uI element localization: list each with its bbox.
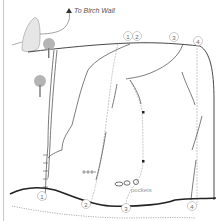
trail-line bbox=[12, 206, 196, 218]
route-number-top-3: 3 bbox=[170, 33, 179, 42]
route-2-bolts bbox=[82, 170, 96, 174]
route-number-top-1: 1 bbox=[124, 32, 133, 41]
main-crack bbox=[48, 44, 130, 158]
pockets-label: pockets bbox=[131, 187, 152, 193]
boulder bbox=[22, 18, 40, 52]
tree-icon bbox=[34, 75, 46, 97]
route-number-bottom-2: 2 bbox=[82, 200, 91, 209]
crag-top bbox=[28, 43, 214, 200]
route-number-bottom-3: 3 bbox=[122, 204, 131, 213]
route-number-bottom-1: 1 bbox=[38, 192, 47, 201]
route-number-top-2: 2 bbox=[133, 32, 142, 41]
arrow-up-icon bbox=[66, 8, 72, 13]
approach-trail bbox=[40, 12, 70, 34]
route-number-bottom-4: 4 bbox=[188, 202, 197, 211]
direction-label: To Birch Wall bbox=[74, 7, 115, 14]
route-number-top-4: 4 bbox=[194, 37, 203, 46]
route-2-line bbox=[90, 44, 118, 205]
bolt-marker bbox=[142, 160, 145, 163]
left-wall-line bbox=[45, 50, 54, 200]
climbing-topo: To Birch Wall po bbox=[0, 0, 223, 221]
bolt-marker bbox=[142, 111, 145, 114]
